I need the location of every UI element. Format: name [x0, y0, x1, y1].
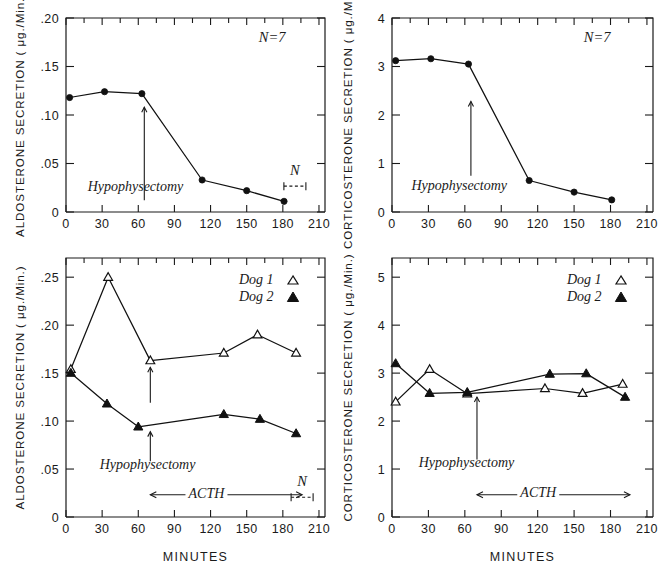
y-tick-label: 2	[378, 109, 385, 123]
panel-top-left: 03060901201501802100.05.10.15.20N=7Hypop…	[13, 0, 330, 237]
y-tick-label: .05	[40, 157, 59, 171]
y-tick-label: 1	[378, 157, 385, 171]
data-point-open-triangle	[253, 330, 262, 338]
y-tick-label: .10	[40, 109, 59, 123]
y-tick-label: 0	[378, 511, 385, 525]
panel-bottom-left: 03060901201501802100.05.10.15.20.25Hypop…	[13, 258, 330, 536]
y-tick-label: 1	[378, 463, 385, 477]
x-tick-label: 120	[527, 522, 549, 536]
x-tick-label: 150	[563, 217, 585, 231]
legend-marker-open-triangle	[616, 276, 626, 284]
data-point-filled-triangle	[219, 410, 228, 418]
hypophysectomy-arrow	[468, 101, 473, 175]
hypophysectomy-arrow	[474, 397, 479, 459]
data-point-filled-circle	[526, 177, 532, 183]
x-tick-label: 150	[563, 522, 585, 536]
data-point-open-triangle	[618, 380, 627, 388]
data-point-filled-triangle	[582, 369, 591, 377]
hypophysectomy-label: Hypophysectomy	[418, 455, 515, 470]
y-tick-label: 0	[52, 511, 59, 525]
legend-label-1: Dog 1	[566, 272, 602, 287]
data-point-filled-triangle	[425, 388, 434, 396]
x-tick-label: 150	[236, 217, 258, 231]
x-tick-label: 30	[421, 217, 436, 231]
legend-label-1: Dog 1	[238, 272, 274, 287]
x-tick-label: 210	[308, 217, 330, 231]
data-point-filled-circle	[393, 58, 399, 64]
x-tick-label: 150	[236, 522, 258, 536]
plot-frame	[392, 258, 653, 517]
data-point-filled-circle	[101, 89, 107, 95]
x-tick-label: 60	[457, 217, 472, 231]
data-point-open-triangle	[425, 365, 434, 373]
y-tick-label: 0	[378, 206, 385, 220]
data-point-open-triangle	[219, 348, 228, 356]
x-tick-label: 90	[167, 217, 182, 231]
data-point-filled-circle	[67, 94, 73, 100]
y-tick-label: 3	[378, 367, 385, 381]
panel-bottom-right: 0306090120150180210012345HypophysectomyA…	[341, 253, 658, 536]
data-point-filled-circle	[571, 189, 577, 195]
data-point-filled-triangle	[545, 369, 554, 377]
legend-label-2: Dog 2	[566, 289, 602, 304]
x-tick-label: 180	[272, 217, 294, 231]
y-tick-label: .20	[40, 12, 59, 26]
y-tick-label: 5	[378, 271, 385, 285]
hypophysectomy-arrow	[148, 367, 153, 402]
x-axis-title: MINUTES	[163, 550, 228, 564]
data-point-filled-triangle	[620, 392, 629, 400]
y-axis-title: ALDOSTERONE SECRETION ( μg./Min.)	[13, 266, 26, 510]
x-tick-label: 30	[421, 522, 436, 536]
data-point-filled-triangle	[102, 399, 111, 407]
figure-root: 03060901201501802100.05.10.15.20N=7Hypop…	[0, 0, 663, 574]
hypophysectomy-label: Hypophysectomy	[87, 179, 184, 194]
x-tick-label: 60	[131, 217, 146, 231]
y-tick-label: .20	[40, 319, 59, 333]
error-bar-key-label: N	[296, 473, 308, 489]
x-tick-label: 120	[527, 217, 549, 231]
x-tick-label: 0	[62, 522, 69, 536]
x-tick-label: 90	[167, 522, 182, 536]
x-tick-label: 0	[388, 522, 395, 536]
legend-label-2: Dog 2	[238, 289, 274, 304]
x-tick-label: 60	[131, 522, 146, 536]
x-tick-label: 180	[599, 217, 621, 231]
x-tick-label: 30	[95, 217, 110, 231]
data-point-filled-circle	[465, 61, 471, 67]
x-tick-label: 120	[200, 217, 222, 231]
data-point-filled-circle	[139, 91, 145, 97]
data-point-open-triangle	[541, 384, 550, 392]
error-bar-key-label: N	[289, 162, 301, 178]
hypophysectomy-label: Hypophysectomy	[410, 178, 507, 193]
four-panel-chart: 03060901201501802100.05.10.15.20N=7Hypop…	[0, 0, 663, 574]
x-tick-label: 210	[636, 522, 658, 536]
y-tick-label: .05	[40, 463, 59, 477]
plot-frame	[66, 258, 325, 517]
error-bar-key	[284, 182, 306, 190]
x-tick-label: 30	[95, 522, 110, 536]
acth-label: ACTH	[519, 485, 557, 500]
x-axis-title: MINUTES	[490, 550, 555, 564]
data-point-filled-circle	[609, 197, 615, 203]
data-point-filled-circle	[281, 198, 287, 204]
x-tick-label: 180	[599, 522, 621, 536]
x-tick-label: 120	[200, 522, 222, 536]
acth-label: ACTH	[188, 486, 226, 501]
y-tick-label: 4	[378, 12, 385, 26]
data-point-filled-circle	[428, 56, 434, 62]
y-tick-label: 0	[52, 206, 59, 220]
x-tick-label: 90	[494, 522, 509, 536]
y-axis-title: CORTICOSTERONE SECRETION ( μg./Min.)	[341, 253, 354, 521]
y-tick-label: .15	[40, 367, 59, 381]
legend-marker-filled-triangle	[287, 292, 298, 302]
x-tick-label: 60	[457, 522, 472, 536]
x-tick-label: 0	[62, 217, 69, 231]
y-tick-label: .10	[40, 415, 59, 429]
y-tick-label: 4	[378, 319, 385, 333]
panel-top-right: 030609012015018021001234N=7Hypophysectom…	[341, 0, 658, 249]
y-axis-title: CORTICOSTERONE SECRETION ( μg./Min.)	[341, 0, 354, 249]
hypophysectomy-label: Hypophysectomy	[99, 457, 196, 472]
data-point-filled-circle	[199, 177, 205, 183]
x-tick-label: 90	[494, 217, 509, 231]
x-tick-label: 0	[388, 217, 395, 231]
